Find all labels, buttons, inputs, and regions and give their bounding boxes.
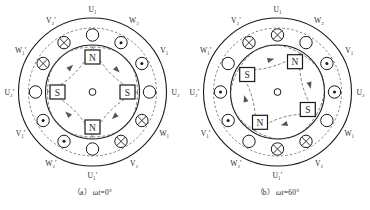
slot bbox=[86, 29, 98, 41]
slot-label: V₂′ bbox=[46, 16, 56, 25]
dot-out-of-page-icon bbox=[333, 91, 336, 94]
dot-out-of-page-icon bbox=[219, 91, 222, 94]
slot-label: U₂′ bbox=[5, 88, 15, 97]
flux-direction-arrow bbox=[113, 66, 120, 73]
slot-label: U₁′ bbox=[88, 171, 98, 180]
flux-direction-arrow bbox=[66, 65, 73, 72]
slot bbox=[300, 135, 312, 147]
pole-marker: S bbox=[120, 85, 135, 99]
pole-marker: N bbox=[288, 55, 303, 69]
slot bbox=[300, 36, 312, 48]
caption-a-omega: ωt bbox=[93, 188, 101, 197]
figure-root: U₁W₂V₁U₂W₁V₂U₁′W₂′V₁′U₂′W₁′V₂′NSNS （a） ω… bbox=[0, 0, 370, 210]
caption-a-value: =0° bbox=[101, 188, 113, 197]
slot-label: V₂ bbox=[130, 159, 138, 168]
figure-panel-b: U₁W₂V₁U₂W₁V₂U₁′W₂′V₁′U₂′W₁′V₂′NSNS （b） ω… bbox=[185, 0, 370, 210]
pole-label: N bbox=[292, 57, 299, 67]
slot bbox=[58, 36, 70, 48]
slot bbox=[37, 114, 49, 126]
pole-marker: N bbox=[85, 50, 100, 64]
flux-direction-arrow bbox=[112, 113, 119, 120]
slot-circle bbox=[222, 57, 234, 69]
slot-label: W₁ bbox=[159, 129, 169, 138]
slot-circle bbox=[86, 143, 98, 155]
slot bbox=[321, 114, 333, 126]
slot-label: V₁′ bbox=[201, 129, 211, 138]
pole-label: S bbox=[55, 88, 60, 98]
slot bbox=[222, 114, 234, 126]
stator-diagram-a: U₁W₂V₁U₂W₁V₂U₁′W₂′V₁′U₂′W₁′V₂′NSNS bbox=[0, 0, 185, 186]
slot-circle bbox=[29, 86, 41, 98]
flux-direction-arrow bbox=[244, 95, 249, 102]
shaft-center bbox=[274, 89, 281, 96]
flux-direction-arrow bbox=[267, 58, 274, 63]
slot-circle bbox=[86, 29, 98, 41]
slot-label: U₂ bbox=[356, 88, 364, 97]
slot-label: U₁′ bbox=[273, 171, 283, 180]
dot-out-of-page-icon bbox=[63, 140, 66, 143]
slot-label: U₁ bbox=[88, 5, 96, 14]
slot bbox=[222, 57, 234, 69]
slot bbox=[136, 114, 148, 126]
slot bbox=[58, 135, 70, 147]
slot-label: V₂′ bbox=[231, 16, 241, 25]
caption-a: （a） ωt=0° bbox=[0, 186, 185, 197]
flux-direction-arrow bbox=[65, 111, 72, 118]
slot bbox=[29, 86, 41, 98]
caption-b-index: （b） bbox=[256, 188, 274, 197]
caption-b-value: =60° bbox=[284, 188, 300, 197]
caption-b: （b） ωt=60° bbox=[185, 186, 370, 197]
caption-b-omega: ωt bbox=[276, 188, 284, 197]
dot-out-of-page-icon bbox=[227, 119, 230, 122]
slot bbox=[271, 143, 283, 155]
slot-circle bbox=[321, 114, 333, 126]
slot-label: W₁ bbox=[344, 129, 354, 138]
pole-marker: N bbox=[85, 120, 100, 134]
slot bbox=[271, 29, 283, 41]
slot-label: W₁′ bbox=[15, 46, 27, 55]
slot-label: V₁ bbox=[160, 46, 168, 55]
flux-direction-arrow bbox=[307, 82, 312, 89]
slot-circle bbox=[243, 135, 255, 147]
slot-label: W₂ bbox=[129, 16, 139, 25]
caption-a-index: （a） bbox=[73, 188, 91, 197]
slot-label: W₂′ bbox=[230, 159, 242, 168]
pole-label: N bbox=[89, 123, 96, 133]
slot-label: W₁′ bbox=[200, 46, 212, 55]
figure-panel-a: U₁W₂V₁U₂W₁V₂U₁′W₂′V₁′U₂′W₁′V₂′NSNS （a） ω… bbox=[0, 0, 185, 210]
slot-circle bbox=[300, 36, 312, 48]
slot-label: W₂′ bbox=[45, 159, 57, 168]
slot bbox=[214, 86, 226, 98]
slot bbox=[143, 86, 155, 98]
pole-marker: S bbox=[50, 85, 65, 99]
slot-label: U₂′ bbox=[190, 88, 200, 97]
pole-marker: N bbox=[253, 115, 268, 129]
dot-out-of-page-icon bbox=[120, 41, 123, 44]
pole-label: S bbox=[125, 88, 130, 98]
pole-label: N bbox=[89, 53, 96, 63]
slot bbox=[243, 135, 255, 147]
dot-out-of-page-icon bbox=[140, 62, 143, 65]
slot-label: U₂ bbox=[171, 88, 179, 97]
slot bbox=[328, 86, 340, 98]
slot bbox=[37, 57, 49, 69]
stator-diagram-b: U₁W₂V₁U₂W₁V₂U₁′W₂′V₁′U₂′W₁′V₂′NSNS bbox=[185, 0, 370, 186]
pole-marker: S bbox=[300, 103, 315, 117]
slot-label: W₂ bbox=[314, 16, 324, 25]
shaft-center bbox=[89, 89, 96, 96]
slot-label: V₁′ bbox=[16, 129, 26, 138]
slot bbox=[86, 143, 98, 155]
dot-out-of-page-icon bbox=[42, 119, 45, 122]
slot-label: V₁ bbox=[345, 46, 353, 55]
slot bbox=[243, 36, 255, 48]
pole-marker: S bbox=[240, 68, 255, 82]
flux-direction-arrow bbox=[281, 121, 288, 126]
slot bbox=[136, 57, 148, 69]
slot bbox=[115, 36, 127, 48]
pole-label: N bbox=[257, 118, 264, 128]
dot-out-of-page-icon bbox=[325, 62, 328, 65]
pole-label: S bbox=[305, 105, 310, 115]
slot-label: V₂ bbox=[315, 159, 323, 168]
slot bbox=[321, 57, 333, 69]
slot-label: U₁ bbox=[273, 5, 281, 14]
